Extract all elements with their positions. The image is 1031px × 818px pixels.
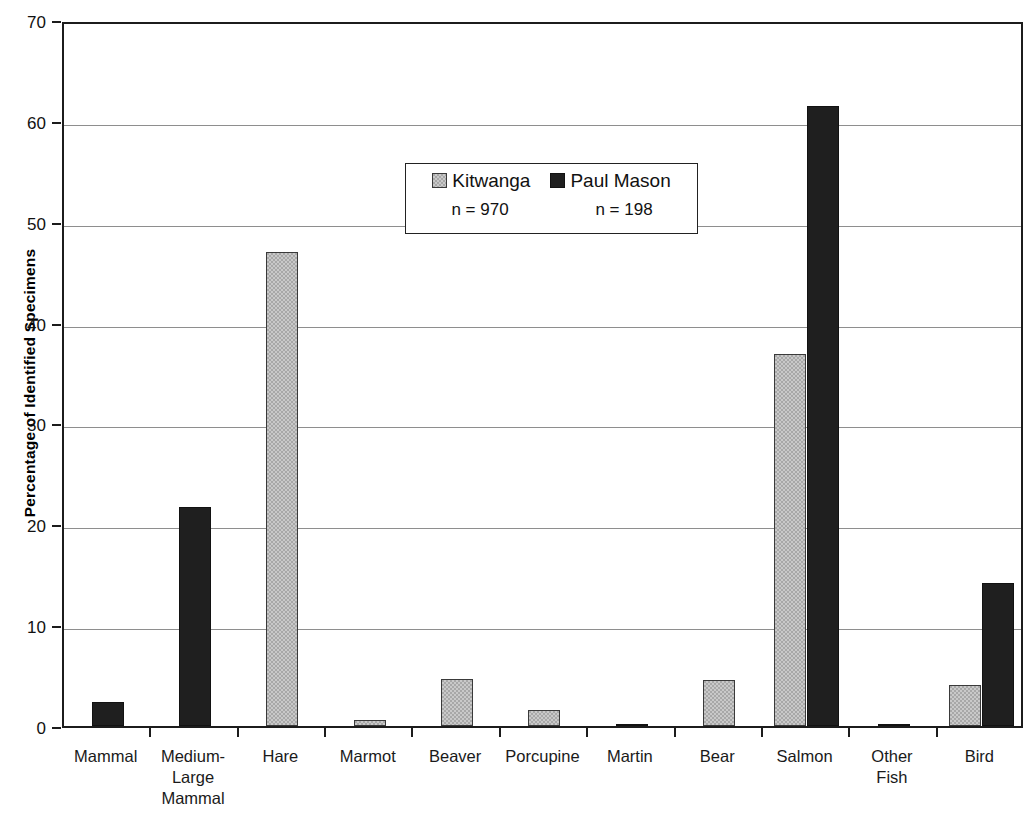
x-axis-tick-marks	[62, 728, 1023, 738]
bar-kitwanga	[441, 679, 473, 726]
bar-group	[151, 24, 238, 726]
bar-group	[413, 24, 500, 726]
bar-kitwanga	[949, 685, 981, 726]
x-axis-label-line: Hare	[237, 746, 324, 767]
bar-group	[676, 24, 763, 726]
bar-paul-mason	[92, 702, 124, 726]
legend-swatch-icon-kitwanga	[432, 173, 447, 188]
x-axis-category-label: Marmot	[324, 746, 411, 767]
x-axis-category-label: Martin	[586, 746, 673, 767]
x-axis-category-label: Beaver	[411, 746, 498, 767]
bar-paul-mason	[616, 724, 648, 726]
plot-area: Kitwanga Paul Mason n = 970 n = 198	[62, 22, 1023, 728]
x-axis-category-label: Hare	[237, 746, 324, 767]
legend-sample-sizes-row: n = 970 n = 198	[406, 200, 697, 220]
bar-chart: Percentage of Identified Specimens 01020…	[0, 0, 1031, 818]
x-axis-label-line: Mammal	[62, 746, 149, 767]
x-axis-tick-mark	[586, 728, 588, 737]
x-axis-tick-mark	[237, 728, 239, 737]
x-axis-tick-mark	[499, 728, 501, 737]
x-axis-tick-mark	[149, 728, 151, 737]
bar-kitwanga	[703, 680, 735, 726]
x-axis-label-line: Beaver	[411, 746, 498, 767]
x-axis-category-label: Salmon	[761, 746, 848, 767]
legend-label-kitwanga: Kitwanga	[452, 171, 530, 190]
y-axis-tick-mark	[52, 122, 61, 124]
x-axis-label-line: Large	[149, 767, 236, 788]
y-axis-tick-mark	[52, 626, 61, 628]
bar-paul-mason	[179, 507, 211, 726]
y-axis-tick-mark	[52, 324, 61, 326]
x-axis-tick-mark	[848, 728, 850, 737]
bar-group	[501, 24, 588, 726]
bar-kitwanga	[354, 720, 386, 726]
x-axis-category-labels: MammalMedium-LargeMammalHareMarmotBeaver…	[62, 746, 1023, 818]
x-axis-tick-mark	[674, 728, 676, 737]
legend-swatch-icon-paul-mason	[550, 173, 565, 188]
x-axis-category-label: Bear	[674, 746, 761, 767]
x-axis-label-line: Bear	[674, 746, 761, 767]
x-axis-label-line: Fish	[848, 767, 935, 788]
bar-group	[850, 24, 937, 726]
x-axis-label-line: Mammal	[149, 788, 236, 809]
x-axis-category-label: OtherFish	[848, 746, 935, 788]
bar-paul-mason	[878, 724, 910, 726]
x-axis-label-line: Marmot	[324, 746, 411, 767]
y-axis-tick-marks	[0, 22, 62, 728]
legend-entry-paul-mason: Paul Mason	[550, 171, 670, 190]
y-axis-tick-mark	[52, 525, 61, 527]
bar-kitwanga	[774, 354, 806, 726]
x-axis-tick-mark	[761, 728, 763, 737]
x-axis-category-label: Medium-LargeMammal	[149, 746, 236, 809]
x-axis-label-line: Porcupine	[499, 746, 586, 767]
x-axis-label-line: Medium-	[149, 746, 236, 767]
legend-entry-kitwanga: Kitwanga	[432, 171, 530, 190]
y-axis-tick-mark	[52, 223, 61, 225]
bar-group	[239, 24, 326, 726]
x-axis-label-line: Salmon	[761, 746, 848, 767]
x-axis-tick-mark	[324, 728, 326, 737]
legend-label-paul-mason: Paul Mason	[570, 171, 670, 190]
x-axis-tick-mark	[411, 728, 413, 737]
x-axis-category-label: Porcupine	[499, 746, 586, 767]
bar-paul-mason	[807, 106, 839, 726]
bar-group	[64, 24, 151, 726]
chart-legend: Kitwanga Paul Mason n = 970 n = 198	[405, 163, 698, 234]
bar-paul-mason	[982, 583, 1014, 726]
x-axis-tick-mark	[936, 728, 938, 737]
y-axis-tick-mark	[52, 21, 61, 23]
bar-kitwanga	[528, 710, 560, 726]
legend-sample-size-paul-mason: n = 198	[554, 200, 694, 220]
bar-group	[588, 24, 675, 726]
legend-entries-row: Kitwanga Paul Mason	[406, 171, 697, 190]
y-axis-tick-mark	[52, 727, 61, 729]
x-axis-label-line: Other	[848, 746, 935, 767]
bars-layer	[64, 24, 1021, 726]
x-axis-label-line: Martin	[586, 746, 673, 767]
x-axis-label-line: Bird	[936, 746, 1023, 767]
bar-kitwanga	[266, 252, 298, 726]
bar-group	[326, 24, 413, 726]
x-axis-category-label: Bird	[936, 746, 1023, 767]
legend-sample-size-kitwanga: n = 970	[406, 200, 554, 220]
bar-group	[938, 24, 1025, 726]
y-axis-tick-mark	[52, 424, 61, 426]
bar-group	[763, 24, 850, 726]
x-axis-category-label: Mammal	[62, 746, 149, 767]
